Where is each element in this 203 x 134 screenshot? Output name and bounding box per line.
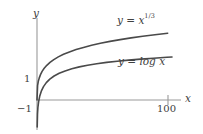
curve-label-log: y = log x <box>118 56 165 67</box>
y-axis-label: y <box>33 8 39 19</box>
curve-label-cube-root: y = x1/3 <box>117 14 155 25</box>
curve-log <box>37 57 172 127</box>
x-tick-label-100: 100 <box>157 104 176 114</box>
y-tick-label-1: 1 <box>24 74 30 84</box>
y-tick-label-minus-1: −1 <box>17 104 32 114</box>
curve-label-cube-root-base: y = x <box>117 14 144 26</box>
figure-container: y x 1 −1 100 y = x1/3 y = log x <box>0 0 203 134</box>
x-axis-label: x <box>185 93 191 104</box>
curve-label-cube-root-exponent: 1/3 <box>144 13 154 20</box>
